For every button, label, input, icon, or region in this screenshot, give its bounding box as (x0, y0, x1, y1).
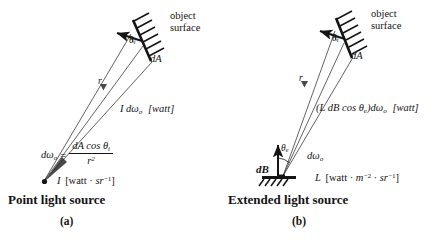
panel-a-caption: Point light source (8, 193, 105, 208)
panel-a-units-open: [watt · (65, 175, 95, 186)
panel-b-units-sr-exponent: −1 (388, 172, 396, 180)
panel-b-object-surface-label: object surface (371, 8, 401, 32)
panel-b-source-symbol: L (315, 172, 321, 183)
panel-a-incidence-angle-label: θi (129, 35, 135, 46)
panel-b-object-line2: surface (371, 20, 401, 32)
panel-b-subcaption: (b) (292, 215, 306, 228)
panel-b-emission-angle-label: θe (281, 143, 289, 154)
panel-a-source-units: I [watt · sr−1] (57, 175, 115, 187)
panel-b-source-theta-subscript: e (286, 146, 289, 153)
panel-b-flux-subscript-2: o (383, 107, 387, 115)
panel-a-source-symbol: I (57, 175, 61, 186)
panel-a-object-line1: object (170, 10, 200, 22)
panel-b-units-close: ] (396, 172, 400, 183)
panel-a-solid-angle-symbol: dωo (41, 149, 57, 162)
panel-b-caption: Extended light source (228, 193, 348, 208)
panel-a-area-label: dA (150, 53, 162, 65)
panel-b-units-open: [watt · (325, 172, 355, 183)
panel-b-solid-angle-label: dωo (307, 150, 323, 163)
panel-b-flux-symbol: (L dB cos θ (316, 102, 364, 113)
panel-b-units-sr: sr (380, 172, 388, 183)
extended-source-hatching (259, 179, 288, 186)
panel-b-units-metre-exponent: −2 (363, 172, 371, 180)
panel-a-object-surface-label: object surface (170, 10, 200, 34)
panel-a-fraction-denominator: r2 (69, 154, 113, 167)
panel-b-domega-subscript: o (320, 155, 324, 163)
panel-a-subcaption: (a) (60, 215, 73, 228)
panel-b-source-units: L [watt · m−2 · sr−1] (315, 172, 399, 184)
panel-a-flux-subscript: o (139, 108, 143, 116)
panel-a-theta-subscript: i (134, 38, 136, 45)
panel-a-units-close: ] (111, 175, 115, 186)
panel-a-fraction-numerator: dA cos θi (69, 140, 113, 155)
panel-a-flux-symbol: I dω (120, 103, 139, 114)
panel-a-units-sr: sr (95, 175, 103, 186)
panel-b-flux-units: [watt] (392, 102, 418, 113)
panel-b-object-line1: object (371, 8, 401, 20)
panel-b-flux-symbol-2: )dω (367, 102, 383, 113)
panel-b-units-separator: · (371, 172, 380, 183)
panel-a-flux-units: [watt] (148, 103, 174, 114)
radiometry-figure: object surface dA θi r I dωo [watt] dωo … (0, 0, 445, 240)
panel-a-equals-sign: = (60, 150, 66, 162)
panel-a-distance-label: r (98, 76, 102, 87)
panel-a-fraction: dA cos θi r2 (69, 140, 113, 167)
panel-b-theta-subscript: i (337, 36, 339, 43)
panel-a-solid-angle-equation: dωo = dA cos θi r2 (41, 142, 113, 169)
panel-a-object-line2: surface (170, 22, 200, 34)
panel-b-distance-label: r (299, 73, 303, 84)
panel-b-incidence-angle-label: θi (332, 33, 338, 44)
panel-b-source-area-label: dB (256, 163, 269, 175)
panel-b-flux-expression: (L dB cos θe)dωo [watt] (316, 102, 419, 115)
panel-b-domega-symbol: dω (307, 150, 320, 161)
panel-b-area-label: dA (351, 50, 363, 62)
panel-a-flux-expression: I dωo [watt] (120, 103, 174, 116)
